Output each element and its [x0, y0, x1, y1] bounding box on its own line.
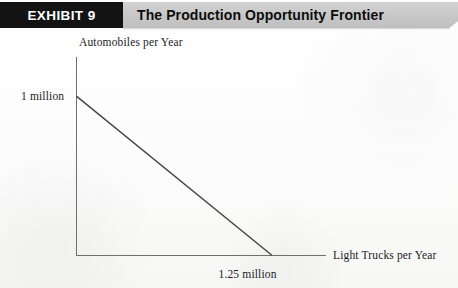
y-axis-title: Automobiles per Year [79, 36, 183, 48]
x-axis-tick-label: 1.25 million [219, 268, 277, 280]
exhibit-header: EXHIBIT 9 The Production Opportunity Fro… [0, 2, 458, 28]
ppf-frontier-line [77, 97, 272, 255]
x-axis-title: Light Trucks per Year [333, 249, 436, 261]
exhibit-title: The Production Opportunity Frontier [137, 2, 384, 28]
exhibit-tag-label: EXHIBIT 9 [0, 2, 123, 28]
y-axis-tick-label: 1 million [21, 90, 64, 102]
ppf-chart: Automobiles per Year 1 million Light Tru… [0, 28, 458, 288]
exhibit-figure: EXHIBIT 9 The Production Opportunity Fro… [0, 0, 458, 288]
